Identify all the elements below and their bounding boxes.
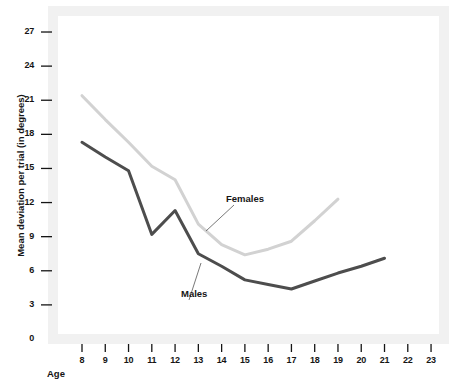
x-tick-label: 15 [235,355,255,365]
x-tick-label: 23 [421,355,441,365]
x-tick-label: 16 [258,355,278,365]
line-chart-figure: 0369121518212427 89101112131415161718192… [0,0,459,390]
y-tick-label: 24 [12,60,34,70]
x-tick-label: 9 [95,355,115,365]
series-line-females [82,96,338,255]
series-label-females: Females [226,193,264,204]
x-axis-tick-marks [82,344,431,352]
x-tick-label: 13 [188,355,208,365]
y-axis-tick-marks [41,32,52,305]
x-axis-title: Age [47,368,65,379]
x-tick-label: 19 [328,355,348,365]
x-tick-label: 11 [142,355,162,365]
y-tick-label: 0 [12,333,34,343]
leader-line [206,205,234,231]
x-tick-label: 17 [281,355,301,365]
y-tick-label: 3 [12,299,34,309]
x-tick-label: 8 [72,355,92,365]
y-tick-label: 27 [12,26,34,36]
x-tick-label: 14 [212,355,232,365]
x-tick-label: 12 [165,355,185,365]
x-tick-label: 20 [351,355,371,365]
series-line-males [82,142,385,289]
series-label-males: Males [181,288,207,299]
y-axis-title: Mean deviation per trial (in degrees) [15,76,26,276]
x-tick-label: 18 [305,355,325,365]
x-tick-label: 10 [119,355,139,365]
x-tick-label: 21 [375,355,395,365]
x-tick-label: 22 [398,355,418,365]
